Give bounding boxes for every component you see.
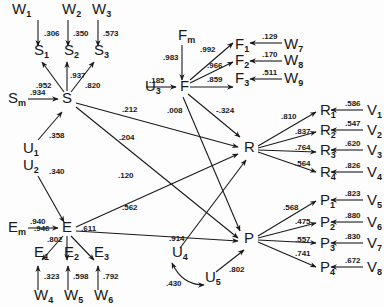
- coefficient-label: .859: [207, 75, 223, 84]
- coefficient-label: .820: [85, 81, 101, 90]
- coefficient-label: .792: [103, 272, 119, 281]
- node-fm: Fm: [178, 26, 195, 45]
- node-f: F: [180, 77, 189, 94]
- nodes-layer: W1W2W3S1S2S3SmSU1U2EmEE1E2E3W4W5W6FmU3FF…: [8, 0, 382, 305]
- coefficient-label: .937: [70, 71, 86, 80]
- coefficient-label: .562: [122, 203, 138, 212]
- node-w1: W1: [12, 0, 31, 19]
- coefficient-label: .992: [200, 45, 216, 54]
- node-w4: W4: [34, 286, 53, 305]
- coefficient-label: .511: [262, 68, 278, 77]
- node-f3: F3: [235, 69, 249, 88]
- node-s3: S3: [94, 41, 109, 60]
- node-v8: V8: [367, 258, 382, 277]
- coefficient-label: -.324: [216, 106, 235, 115]
- node-w5: W5: [64, 286, 83, 305]
- coefficient-label: .810: [281, 112, 297, 121]
- coefficient-label: .620: [345, 139, 361, 148]
- coefficient-label: .350: [73, 29, 89, 38]
- node-w2: W2: [62, 0, 81, 19]
- coefficient-label: .204: [119, 133, 135, 142]
- edge-u4-to-r: [180, 160, 246, 248]
- node-s: S: [62, 89, 72, 106]
- node-v7: V7: [367, 234, 382, 253]
- node-r1: R1: [320, 101, 336, 120]
- node-r3: R3: [320, 141, 336, 160]
- coefficient-label: .170: [262, 50, 278, 59]
- node-p1: P1: [320, 191, 335, 210]
- coefficient-label: .823: [345, 189, 361, 198]
- node-w6: W6: [94, 286, 113, 305]
- coefficient-label: .830: [345, 232, 361, 241]
- edges-layer: [28, 20, 363, 290]
- coefficient-label: .966: [207, 61, 223, 70]
- node-e: E: [62, 218, 72, 235]
- coefficient-label: .340: [49, 167, 65, 176]
- coefficient-label: .764: [295, 143, 311, 152]
- coefficient-label: .306: [44, 29, 60, 38]
- edge-f-to-p: [183, 97, 240, 231]
- node-v1: V1: [367, 101, 382, 120]
- edge-s-to-p: [76, 107, 238, 238]
- coefficient-label: .008: [167, 106, 183, 115]
- coefficient-label: .802: [47, 235, 63, 244]
- coefficient-label: .598: [73, 272, 89, 281]
- node-v3: V3: [367, 141, 382, 160]
- coefficient-label: .573: [103, 29, 119, 38]
- node-em: Em: [8, 218, 26, 237]
- node-v6: V6: [367, 213, 382, 232]
- node-r4: R4: [320, 163, 336, 182]
- node-e2: E2: [64, 243, 79, 262]
- node-v2: V2: [367, 121, 382, 140]
- correlation-label: .430: [166, 279, 182, 288]
- coefficient-label: .129: [262, 32, 278, 41]
- edge-f-to-r: [188, 94, 240, 137]
- coefficient-label: .611: [81, 224, 97, 233]
- path-diagram-svg: .306.350.573.952.937.820.934.358.340.940…: [0, 0, 384, 307]
- node-e3: E3: [94, 243, 109, 262]
- coefficient-label: .880: [345, 211, 361, 220]
- coefficient-label: .934: [30, 88, 46, 97]
- coefficient-labels-layer: .306.350.573.952.937.820.934.358.340.940…: [30, 29, 361, 288]
- coefficient-label: .568: [283, 203, 299, 212]
- edge-u2-to-e: [38, 176, 64, 222]
- coefficient-label: .741: [295, 249, 311, 258]
- edge-e-to-p: [76, 231, 238, 241]
- node-p2: P2: [320, 213, 335, 232]
- coefficient-label: .802: [229, 265, 245, 274]
- node-p3: P3: [320, 234, 335, 253]
- path-diagram: .306.350.573.952.937.820.934.358.340.940…: [0, 0, 384, 307]
- node-v4: V4: [367, 163, 382, 182]
- coefficient-label: .323: [44, 272, 60, 281]
- coefficient-label: .358: [49, 131, 65, 140]
- node-r2: R2: [320, 121, 336, 140]
- node-sm: Sm: [8, 89, 26, 108]
- node-v5: V5: [367, 191, 382, 210]
- coefficient-label: .475: [295, 217, 311, 226]
- coefficient-label: .120: [118, 171, 134, 180]
- coefficient-label: .586: [345, 99, 361, 108]
- coefficient-label: .564: [295, 159, 311, 168]
- node-p4: P4: [320, 258, 335, 277]
- node-e1: E1: [34, 243, 49, 262]
- node-u4: U4: [172, 243, 188, 262]
- coefficient-label: .557: [295, 235, 311, 244]
- edge-e-to-r: [76, 154, 238, 227]
- coefficient-label: .547: [345, 119, 361, 128]
- coefficient-label: .914: [169, 234, 185, 243]
- coefficient-label: .837: [295, 127, 311, 136]
- node-u5: U5: [205, 268, 221, 287]
- node-w9: W9: [284, 69, 303, 88]
- node-w3: W3: [92, 0, 111, 19]
- node-r: R: [244, 138, 255, 155]
- edge-s-to-r: [76, 103, 238, 147]
- coefficient-label: .946: [34, 224, 50, 233]
- node-p: P: [244, 229, 254, 246]
- node-s2: S2: [64, 41, 79, 60]
- coefficient-label: .983: [163, 53, 179, 62]
- node-u2: U2: [23, 156, 39, 175]
- coefficient-label: .212: [122, 105, 138, 114]
- coefficient-label: .826: [345, 161, 361, 170]
- coefficient-label: .672: [345, 256, 361, 265]
- node-s1: S1: [34, 41, 49, 60]
